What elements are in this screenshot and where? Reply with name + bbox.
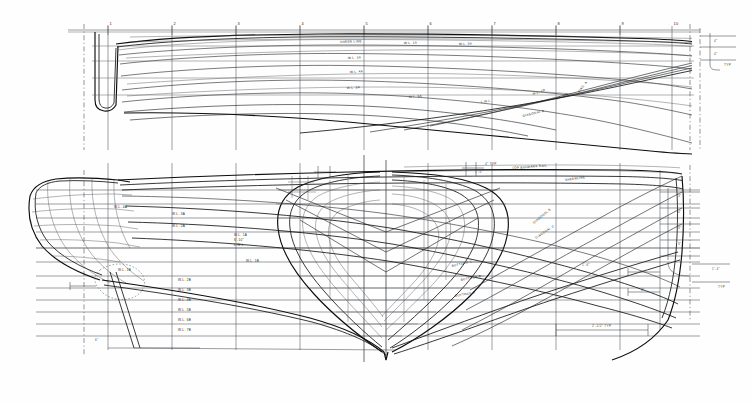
dimension-label: 3" bbox=[678, 242, 682, 246]
station-number: 7 bbox=[494, 21, 497, 26]
profile-label: W.L. 1A bbox=[234, 233, 248, 237]
half-breadth-label: W.L. 2B bbox=[555, 92, 569, 101]
dimension-label: 1'-0" bbox=[475, 170, 483, 174]
dimension-label: 6" bbox=[95, 338, 99, 342]
dimension-label: TYP bbox=[718, 285, 725, 289]
half-breadth-label: W.L. 1B bbox=[532, 88, 546, 96]
half-breadth-label: W.L. 2A bbox=[459, 42, 473, 46]
profile-label: L.W.L. bbox=[234, 243, 245, 247]
station-number: 2 bbox=[174, 21, 177, 26]
profile-label: DIAGONAL B bbox=[532, 207, 552, 224]
profile-label: W.L. 2A bbox=[172, 224, 186, 228]
dimension-label: 1'-4" bbox=[712, 267, 720, 271]
dimension-label: 4" bbox=[714, 39, 718, 43]
right-dimension-stack-top bbox=[700, 28, 736, 150]
station-number: 4 bbox=[302, 21, 305, 26]
half-breadth-label: W.L. 1A bbox=[404, 41, 418, 45]
profile-body-plan bbox=[29, 155, 730, 362]
dimension-label: 4" bbox=[678, 210, 682, 214]
dimension-label: 4" bbox=[714, 52, 718, 56]
lower-left-construction bbox=[70, 264, 396, 350]
station-number: 1 bbox=[110, 21, 113, 26]
framing-detail bbox=[288, 176, 316, 200]
half-breadth-plan bbox=[68, 24, 736, 154]
half-breadth-label: DIAGONAL B bbox=[522, 109, 545, 118]
profile-label: BUTTOCK A bbox=[454, 290, 476, 298]
drawing-sheet: SHEER LINEW.L. 1AW.L. 2AW.L. 3AW.L. 4AW.… bbox=[0, 0, 753, 404]
station-number: 10 bbox=[674, 21, 680, 26]
station-number: 9 bbox=[622, 21, 625, 26]
profile-label: W.L. 3B bbox=[178, 288, 191, 292]
half-breadth-label: SHEER LINE bbox=[340, 39, 362, 44]
dimension-label: 1'-6" bbox=[582, 263, 590, 267]
profile-label: W.L. 1B bbox=[246, 259, 259, 263]
profile-label: W.L. 6B bbox=[178, 318, 191, 322]
dimension-label: 2'-1/2" TYP bbox=[592, 324, 611, 328]
station-number: 6 bbox=[430, 21, 433, 26]
half-breadth-label: W.L. 6A bbox=[409, 94, 423, 99]
station-number: 3 bbox=[238, 21, 241, 26]
profile-label: W.L. 5B bbox=[178, 308, 191, 312]
half-breadth-label: L.W.L. bbox=[481, 99, 492, 104]
station-number: 8 bbox=[558, 21, 561, 26]
profile-label: W.L. 3A bbox=[172, 212, 186, 216]
half-breadth-label: W.L. 4A bbox=[350, 69, 364, 74]
lines-plan-svg: SHEER LINEW.L. 1AW.L. 2AW.L. 3AW.L. 4AW.… bbox=[0, 0, 753, 404]
profile-label: W.L. 4A bbox=[114, 205, 128, 209]
waterlines-lower bbox=[36, 190, 700, 336]
dimension-label: 4" bbox=[641, 288, 645, 292]
station-lines-lower bbox=[84, 155, 690, 362]
station-number: 5 bbox=[366, 21, 369, 26]
profile-label: W.L. 7B bbox=[178, 328, 191, 332]
dimension-label: 4" TYP bbox=[485, 162, 497, 166]
profile-label: 6'-10" bbox=[234, 238, 244, 242]
half-breadth-label: W.L. 5A bbox=[347, 85, 361, 90]
profile-label: W.L. 2B bbox=[178, 278, 191, 282]
dimension-label: 3" bbox=[678, 194, 682, 198]
dimension-label: TYP bbox=[724, 63, 731, 67]
profile-label: W.L. 1B bbox=[118, 268, 131, 272]
profile-label: W.L. 4B bbox=[178, 298, 191, 302]
dimension-label: 3" bbox=[678, 226, 682, 230]
half-breadth-label: W.L. 3A bbox=[348, 56, 362, 60]
